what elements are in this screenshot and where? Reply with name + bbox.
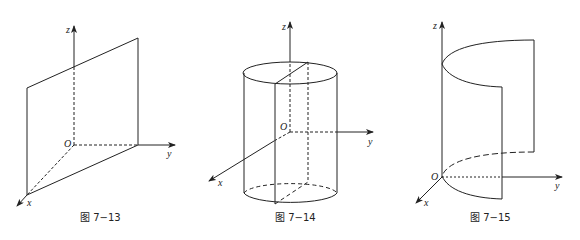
caption: 图 7−13 [80, 212, 121, 223]
x-label: x [423, 197, 429, 208]
diagram-canvas: z O y x 图 7−13 z O y x 图 7−14 z O y [0, 0, 580, 240]
x-axis-hidden [274, 132, 290, 141]
top-curve [442, 40, 534, 87]
origin-label: O [431, 171, 438, 182]
bottom-curve [442, 176, 502, 199]
bottom-back [244, 184, 337, 193]
figure-7-13 [17, 26, 175, 206]
top-cut [275, 62, 308, 84]
bottom-cut [275, 182, 308, 204]
origin-label: O [280, 121, 287, 132]
caption: 图 7−15 [470, 212, 511, 223]
x-label: x [26, 197, 32, 208]
z-label: z [281, 21, 286, 32]
figure-7-14 [209, 22, 373, 204]
caption: 图 7−14 [275, 212, 316, 223]
x-axis [209, 141, 274, 181]
origin-label: O [64, 138, 71, 149]
plane [27, 38, 138, 195]
bottom-front [244, 193, 337, 202]
y-label: y [554, 180, 560, 191]
y-label: y [367, 136, 373, 147]
bottom-curve-hidden [442, 152, 534, 176]
x-label: x [217, 177, 223, 188]
y-label: y [166, 148, 172, 159]
x-axis [17, 195, 27, 206]
z-label: z [65, 24, 70, 35]
z-label: z [432, 20, 437, 31]
x-axis-hidden [27, 145, 74, 195]
